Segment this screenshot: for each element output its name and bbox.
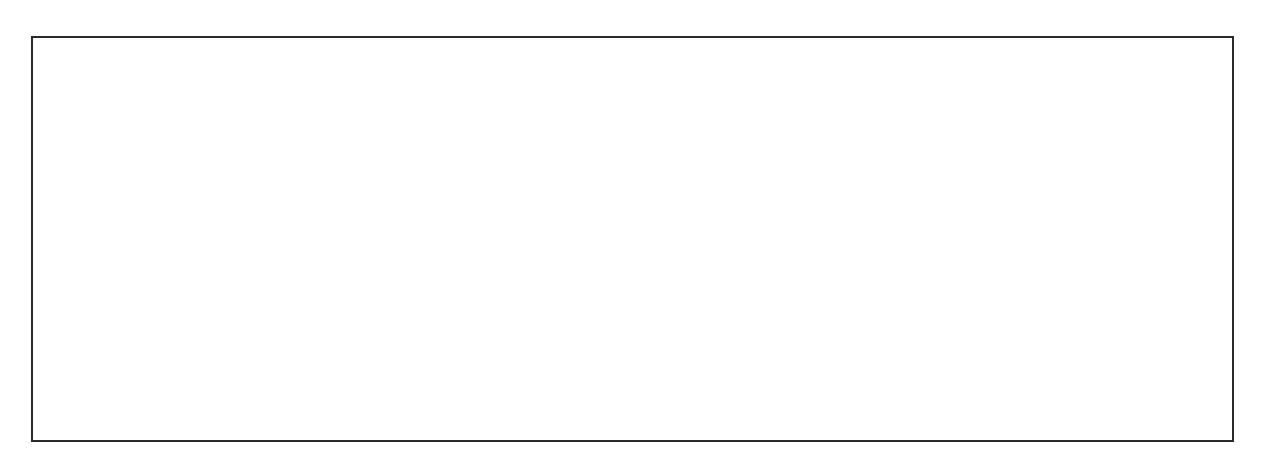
hiv-genome-diagram (0, 0, 1278, 464)
